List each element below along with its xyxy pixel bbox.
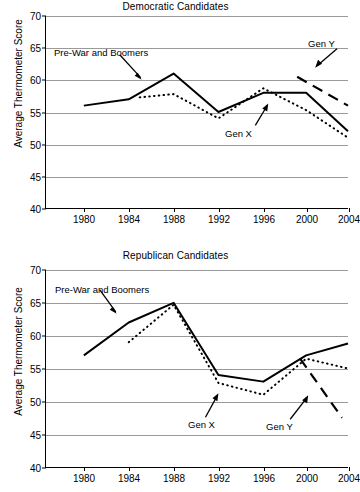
annotation-gen-y-republican: Gen Y [266, 421, 293, 432]
series-layer-democratic [46, 16, 348, 208]
y-tick-mark-40 [42, 209, 46, 210]
annotation-pre-war-and-boomers-republican: Pre-War and Boomers [55, 284, 149, 295]
arrowhead-pre-war-and-boomers [135, 73, 142, 80]
y-tick-label-65: 65 [30, 298, 41, 309]
chart-panel-republican: Republican Candidates Average Thermomete… [0, 246, 351, 492]
x-tick-label-1984: 1984 [118, 473, 140, 484]
y-tick-label-65: 65 [30, 43, 41, 54]
y-tick-label-45: 45 [30, 430, 41, 441]
annotation-gen-x-republican: Gen X [188, 419, 215, 430]
arrowhead-gen-x [262, 104, 268, 112]
x-tick-label-1980: 1980 [73, 214, 95, 225]
x-tick-label-1988: 1988 [163, 214, 185, 225]
plot-area-democratic: 70 65 60 55 50 45 40 1980 1984 1988 1992… [45, 16, 348, 209]
x-tick-label-1992: 1992 [208, 473, 230, 484]
x-tick-label-1984: 1984 [118, 214, 140, 225]
annotation-pre-war-and-boomers-democratic: Pre-War and Boomers [54, 47, 148, 58]
x-tick-mark-1988 [174, 208, 175, 212]
y-axis-label-republican: Average Thermometer Score [13, 272, 24, 432]
y-tick-mark-40 [42, 468, 46, 469]
y-tick-label-55: 55 [30, 107, 41, 118]
y-tick-label-40: 40 [30, 204, 41, 215]
series-line-pre-war-and-boomers [84, 303, 348, 382]
y-tick-label-50: 50 [30, 397, 41, 408]
y-tick-label-40: 40 [30, 463, 41, 474]
x-tick-mark-2000 [307, 208, 308, 212]
series-line-gen-y [297, 77, 348, 106]
y-axis-label-democratic: Average Thermometer Score [13, 4, 24, 164]
annotation-gen-x-democratic: Gen X [225, 128, 252, 139]
x-tick-mark-1980 [84, 467, 85, 471]
x-tick-label-2000: 2000 [296, 214, 318, 225]
x-tick-mark-1984 [129, 208, 130, 212]
x-tick-mark-2004 [349, 208, 350, 212]
arrowhead-pre-war-and-boomers [110, 307, 117, 314]
y-tick-label-60: 60 [30, 331, 41, 342]
series-line-pre-war-and-boomers [84, 74, 348, 132]
x-tick-mark-2000 [307, 467, 308, 471]
annotation-gen-y-democratic: Gen Y [308, 38, 335, 49]
y-tick-label-70: 70 [30, 11, 41, 22]
x-tick-mark-2004 [349, 467, 350, 471]
x-tick-label-1996: 1996 [253, 473, 275, 484]
series-line-gen-y [300, 359, 342, 418]
chart-panel-democratic: Democratic Candidates Average Thermomete… [0, 0, 351, 246]
plot-area-republican: 70 65 60 55 50 45 40 1980 1984 1988 1992… [45, 270, 348, 468]
x-tick-label-2004: 2004 [338, 214, 360, 225]
x-tick-label-1988: 1988 [163, 473, 185, 484]
chart-title-democratic: Democratic Candidates [0, 1, 351, 12]
series-layer-republican [46, 270, 348, 467]
x-tick-label-1992: 1992 [208, 214, 230, 225]
x-tick-label-2000: 2000 [296, 473, 318, 484]
x-tick-mark-1996 [264, 467, 265, 471]
y-tick-label-70: 70 [30, 265, 41, 276]
chart-title-republican: Republican Candidates [0, 250, 351, 261]
y-tick-label-45: 45 [30, 171, 41, 182]
x-tick-mark-1988 [174, 467, 175, 471]
arrowhead-gen-y [315, 60, 322, 68]
x-tick-label-1996: 1996 [253, 214, 275, 225]
x-tick-mark-1984 [129, 467, 130, 471]
x-tick-mark-1980 [84, 208, 85, 212]
x-tick-mark-1996 [264, 208, 265, 212]
y-tick-label-50: 50 [30, 139, 41, 150]
y-tick-label-60: 60 [30, 75, 41, 86]
arrowhead-gen-x [212, 393, 218, 401]
x-tick-mark-1992 [219, 467, 220, 471]
x-tick-mark-1992 [219, 208, 220, 212]
x-tick-label-2004: 2004 [338, 473, 360, 484]
y-tick-label-55: 55 [30, 364, 41, 375]
x-tick-label-1980: 1980 [73, 473, 95, 484]
